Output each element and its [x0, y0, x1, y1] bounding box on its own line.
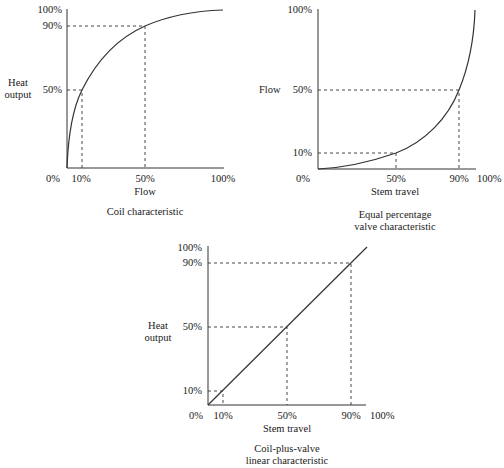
coil-chart-plot	[67, 9, 224, 168]
combined-x-tick-100: 100%	[370, 410, 395, 422]
combined-y-tick-90: 90%	[160, 257, 202, 269]
coil-x-label: Flow	[125, 186, 165, 198]
combined-line	[208, 247, 367, 405]
valve-x-tick-50: 50%	[381, 173, 411, 185]
valve-guide-50	[318, 90, 459, 169]
combined-y-tick-10: 10%	[160, 385, 202, 397]
coil-y-tick-90: 90%	[20, 20, 62, 32]
combined-x-tick-0: 0%	[189, 410, 203, 422]
valve-x-tick-90: 90%	[444, 173, 474, 185]
valve-y-tick-100: 100%	[270, 4, 312, 16]
combined-x-tick-50: 50%	[272, 410, 302, 422]
valve-caption-line1: Equal percentage	[340, 209, 450, 221]
coil-y-label-line1: Heat	[0, 77, 36, 89]
combined-x-tick-10: 10%	[208, 410, 238, 422]
combined-y-tick-100: 100%	[160, 242, 202, 254]
combined-y-label-line1: Heat	[140, 320, 176, 332]
valve-y-label: Flow	[259, 84, 281, 96]
combined-caption-line2: linear characteristic	[232, 455, 342, 467]
coil-x-tick-10: 10%	[66, 173, 96, 185]
valve-chart-plot	[318, 9, 476, 169]
valve-curve	[318, 10, 475, 169]
valve-x-tick-0: 0%	[296, 173, 310, 185]
coil-y-tick-100: 100%	[20, 4, 62, 16]
combined-x-label: Stem travel	[247, 423, 327, 435]
valve-y-tick-10: 10%	[270, 147, 312, 159]
coil-y-label-line2: output	[0, 89, 36, 101]
coil-caption: Coil characteristic	[95, 206, 195, 218]
valve-x-tick-100: 100%	[477, 173, 502, 185]
figure-canvas	[0, 0, 504, 468]
valve-caption-line2: valve characteristic	[340, 221, 450, 233]
combined-x-tick-90: 90%	[336, 410, 366, 422]
coil-x-tick-0: 0%	[46, 173, 60, 185]
coil-x-tick-50: 50%	[130, 173, 160, 185]
valve-x-label: Stem travel	[355, 186, 435, 198]
combined-y-label-line2: output	[140, 332, 176, 344]
coil-x-tick-100: 100%	[205, 173, 241, 185]
combined-chart-plot	[208, 246, 367, 405]
valve-guide-10	[318, 153, 396, 169]
combined-caption-line1: Coil-plus-valve	[232, 443, 342, 455]
coil-guide-50	[67, 90, 82, 168]
